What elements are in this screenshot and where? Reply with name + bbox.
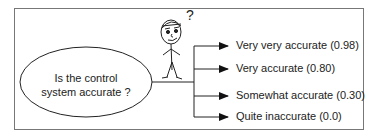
option-3-label: Somewhat accurate (0.30): [236, 89, 365, 102]
question-line-1: Is the control: [26, 71, 146, 85]
option-4-label: Quite inaccurate (0.0): [236, 110, 342, 123]
thinking-stick-figure-icon: [161, 20, 182, 79]
question-text: Is the control system accurate ?: [26, 71, 146, 99]
question-mark-thought: ?: [186, 7, 194, 23]
option-1-label: Very very accurate (0.98): [236, 39, 359, 52]
option-2-label: Very accurate (0.80): [236, 62, 335, 75]
question-line-2: system accurate ?: [26, 85, 146, 99]
